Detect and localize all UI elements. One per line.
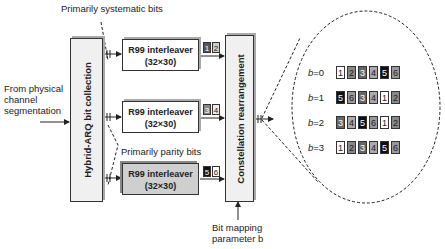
- interleaver-title: R99 interleaver: [123, 106, 198, 118]
- parity-bits-label: Primarily parity bits: [121, 146, 201, 157]
- bit-cell: 5: [358, 116, 367, 129]
- bit-tag-1: 1 2: [203, 42, 220, 53]
- bit-cell: 4: [369, 91, 378, 104]
- bit-tag-2: 3 4: [203, 104, 220, 115]
- hybrid-arq-label: Hybrid-ARQ bit collection: [81, 62, 92, 178]
- bit-cell: 5: [380, 66, 389, 79]
- bit-mapping-line1: Bit mapping: [212, 222, 263, 233]
- bit-cell: 5: [336, 91, 345, 104]
- bit-cell: 2: [347, 141, 356, 154]
- input-label-line1: From physical: [4, 83, 63, 94]
- bit-cell: 3: [336, 116, 345, 129]
- bit-cell: 4: [369, 66, 378, 79]
- input-label-line3: segmentation: [4, 105, 63, 116]
- interleaver-2: R99 interleaver (32×30): [122, 101, 199, 133]
- bit-cell: 5: [380, 141, 389, 154]
- interleaver-title: R99 interleaver: [123, 44, 198, 56]
- bit-cell: 6: [391, 66, 400, 79]
- bit-cell: 2: [212, 42, 220, 53]
- input-label: From physical channel segmentation: [4, 83, 63, 116]
- bit-cell: 3: [358, 66, 367, 79]
- bit-cell: 6: [369, 116, 378, 129]
- bit-cell: 1: [336, 66, 345, 79]
- interleaver-size: (32×30): [123, 56, 198, 68]
- bit-cell: 1: [336, 141, 345, 154]
- interleaver-size: (32×30): [123, 180, 198, 192]
- bit-cell: 6: [391, 141, 400, 154]
- mapping-row: 563412: [336, 91, 400, 104]
- bit-cell: 3: [358, 91, 367, 104]
- systematic-bits-label: Primarily systematic bits: [61, 3, 163, 14]
- bit-cell: 1: [380, 91, 389, 104]
- bit-cell: 4: [212, 104, 220, 115]
- constellation-label: Constellation rearrangement: [234, 54, 245, 183]
- bit-cell: 3: [203, 104, 211, 115]
- bit-cell: 6: [347, 91, 356, 104]
- b-value-label: b=2: [308, 117, 324, 128]
- mapping-row: 123456: [336, 66, 400, 79]
- bit-cell: 2: [347, 66, 356, 79]
- bit-cell: 4: [369, 141, 378, 154]
- interleaver-size: (32×30): [123, 118, 198, 130]
- bit-mapping-label: Bit mapping parameter b: [212, 222, 263, 244]
- bit-mapping-line2: parameter b: [212, 233, 263, 244]
- b-value-label: b=3: [308, 142, 324, 153]
- bit-cell: 1: [380, 116, 389, 129]
- bit-cell: 6: [212, 166, 220, 177]
- bit-cell: 5: [203, 166, 211, 177]
- hybrid-arq-block: Hybrid-ARQ bit collection: [70, 38, 103, 202]
- bit-cell: 1: [203, 42, 211, 53]
- bit-cell: 2: [391, 116, 400, 129]
- interleaver-title: R99 interleaver: [123, 168, 198, 180]
- input-label-line2: channel: [4, 94, 63, 105]
- mapping-row: 345612: [336, 116, 400, 129]
- interleaver-3: R99 interleaver (32×30): [122, 163, 199, 195]
- b-value-label: b=1: [308, 92, 324, 103]
- interleaver-1: R99 interleaver (32×30): [122, 39, 199, 71]
- mapping-row: 123456: [336, 141, 400, 154]
- bit-cell: 2: [391, 91, 400, 104]
- bit-tag-3: 5 6: [203, 166, 220, 177]
- bit-cell: 3: [358, 141, 367, 154]
- b-value-label: b=0: [308, 67, 324, 78]
- bit-cell: 4: [347, 116, 356, 129]
- constellation-block: Constellation rearrangement: [225, 35, 254, 202]
